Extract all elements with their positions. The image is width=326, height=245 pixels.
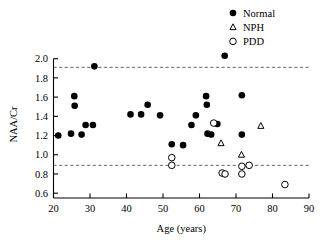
legend-marker-nph bbox=[230, 24, 236, 30]
point-pdd-5 bbox=[239, 163, 246, 170]
point-normal-10 bbox=[144, 102, 151, 109]
legend-label-pdd: PDD bbox=[243, 36, 264, 47]
plot-canvas: 0.60.81.01.21.41.61.82.0 203040506070809… bbox=[0, 0, 326, 245]
series-pdd bbox=[168, 120, 288, 188]
y-axis-tick-labels: 0.60.81.01.21.41.61.82.0 bbox=[35, 53, 49, 199]
series-nph bbox=[218, 123, 264, 158]
legend-marker-pdd bbox=[230, 38, 237, 45]
legend-entry-pdd[interactable]: PDD bbox=[230, 36, 265, 47]
x-tick-label-90: 90 bbox=[304, 203, 315, 214]
point-normal-12 bbox=[168, 141, 175, 148]
point-normal-5 bbox=[82, 122, 89, 129]
point-normal-2 bbox=[71, 93, 78, 100]
point-normal-15 bbox=[193, 112, 200, 119]
legend-marker-normal bbox=[230, 10, 237, 17]
x-tick-label-30: 30 bbox=[85, 203, 96, 214]
x-axis-ticks bbox=[54, 194, 310, 199]
point-pdd-6 bbox=[239, 171, 246, 178]
legend-label-normal: Normal bbox=[243, 8, 275, 19]
y-tick-label-2.0: 2.0 bbox=[35, 53, 48, 64]
x-tick-label-20: 20 bbox=[48, 203, 59, 214]
point-normal-1 bbox=[68, 130, 75, 137]
point-pdd-7 bbox=[246, 162, 253, 169]
x-tick-label-80: 80 bbox=[267, 203, 278, 214]
axes-group bbox=[54, 59, 310, 198]
point-nph-2 bbox=[258, 123, 264, 129]
point-normal-9 bbox=[138, 111, 145, 118]
y-tick-label-1.4: 1.4 bbox=[35, 111, 49, 122]
point-normal-17 bbox=[204, 102, 211, 109]
point-normal-19 bbox=[208, 131, 215, 138]
point-normal-4 bbox=[78, 131, 85, 138]
point-normal-6 bbox=[90, 122, 97, 129]
point-nph-0 bbox=[218, 140, 224, 146]
point-normal-14 bbox=[188, 122, 195, 129]
x-tick-label-50: 50 bbox=[158, 203, 169, 214]
point-normal-11 bbox=[157, 112, 164, 119]
y-tick-label-0.6: 0.6 bbox=[35, 188, 48, 199]
point-normal-7 bbox=[91, 63, 98, 70]
point-normal-13 bbox=[180, 142, 187, 149]
point-pdd-2 bbox=[210, 120, 217, 127]
data-points-group bbox=[55, 53, 288, 188]
point-normal-21 bbox=[221, 53, 228, 60]
point-pdd-0 bbox=[168, 154, 175, 161]
point-nph-1 bbox=[238, 151, 244, 157]
chart-legend: NormalNPHPDD bbox=[230, 8, 275, 47]
point-normal-0 bbox=[55, 132, 62, 139]
point-normal-8 bbox=[127, 111, 134, 118]
point-normal-16 bbox=[203, 93, 210, 100]
point-normal-23 bbox=[239, 131, 246, 138]
legend-entry-nph[interactable]: NPH bbox=[230, 22, 264, 33]
x-axis-title: Age (years) bbox=[157, 223, 207, 235]
x-axis-tick-labels: 2030405060708090 bbox=[48, 203, 314, 214]
point-pdd-4 bbox=[222, 171, 229, 178]
x-tick-label-40: 40 bbox=[121, 203, 132, 214]
scatter-plot-figure: 0.60.81.01.21.41.61.82.0 203040506070809… bbox=[0, 0, 326, 245]
y-tick-label-1.0: 1.0 bbox=[35, 149, 48, 160]
y-tick-label-0.8: 0.8 bbox=[35, 169, 48, 180]
point-normal-3 bbox=[71, 102, 78, 109]
y-tick-label-1.6: 1.6 bbox=[35, 92, 48, 103]
legend-entry-normal[interactable]: Normal bbox=[230, 8, 275, 19]
y-tick-label-1.2: 1.2 bbox=[35, 130, 48, 141]
point-normal-22 bbox=[239, 92, 246, 99]
reference-lines-group bbox=[54, 67, 310, 165]
point-pdd-8 bbox=[282, 181, 289, 188]
legend-label-nph: NPH bbox=[243, 22, 264, 33]
point-pdd-1 bbox=[168, 162, 175, 169]
y-tick-label-1.8: 1.8 bbox=[35, 73, 48, 84]
x-tick-label-60: 60 bbox=[194, 203, 205, 214]
y-axis-title: NAA/Cr bbox=[8, 106, 19, 143]
x-tick-label-70: 70 bbox=[231, 203, 242, 214]
y-axis-ticks bbox=[54, 59, 59, 194]
